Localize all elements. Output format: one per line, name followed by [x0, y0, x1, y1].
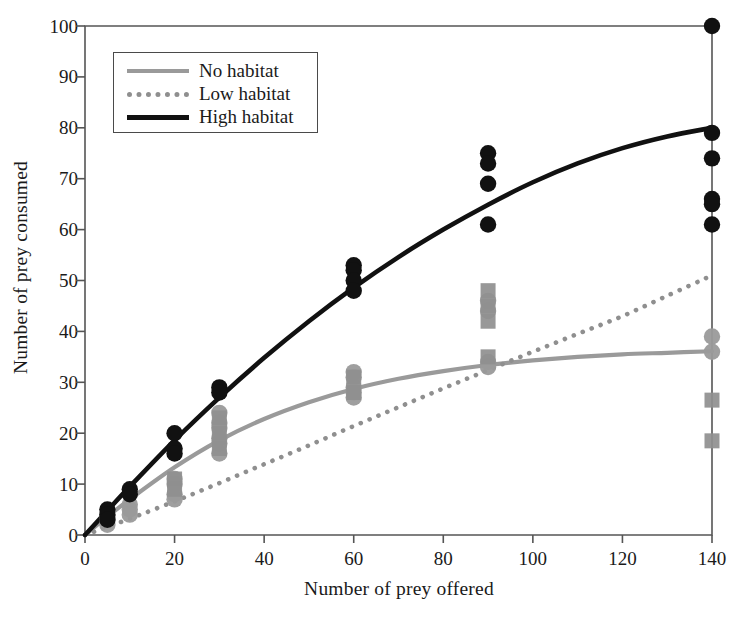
data-point-marker-circle [704, 344, 720, 360]
legend-swatch-solid-black-line-icon [127, 111, 189, 123]
data-point-marker-square [346, 385, 361, 400]
data-point-marker-circle [704, 216, 720, 232]
data-point-marker-circle [346, 282, 362, 298]
data-point-marker-circle [704, 150, 720, 166]
data-points-no-habitat [99, 293, 720, 533]
data-points-low-habitat [167, 283, 719, 497]
data-point-marker-square [481, 298, 496, 313]
legend: No habitat Low habitat High habitat [113, 52, 318, 133]
data-point-marker-circle [211, 384, 227, 400]
legend-item-no-habitat: No habitat [114, 60, 317, 82]
data-point-marker-square [346, 370, 361, 385]
data-point-marker-circle [704, 328, 720, 344]
legend-label: Low habitat [199, 84, 290, 104]
figure-root: Number of prey consumed 0102030405060708… [0, 0, 739, 622]
data-point-marker-circle [480, 155, 496, 171]
data-point-marker-square [167, 482, 182, 497]
data-point-marker-circle [99, 512, 115, 528]
data-point-marker-circle [122, 486, 138, 502]
legend-swatch-solid-gray-line-icon [127, 65, 189, 77]
legend-label: No habitat [199, 61, 279, 81]
data-point-marker-circle [122, 506, 138, 522]
legend-swatch-dotted-gray-line-icon [127, 88, 189, 100]
data-point-marker-square [481, 314, 496, 329]
data-point-marker-square [212, 426, 227, 441]
legend-item-high-habitat: High habitat [114, 106, 317, 128]
data-point-marker-circle [704, 125, 720, 141]
plot-area [0, 0, 739, 622]
data-point-marker-square [481, 349, 496, 364]
x-axis-title: Number of prey offered [85, 578, 713, 600]
data-point-marker-square [481, 283, 496, 298]
data-point-marker-circle [480, 176, 496, 192]
legend-item-low-habitat: Low habitat [114, 83, 317, 105]
legend-label: High habitat [199, 107, 293, 127]
data-point-marker-square [705, 433, 720, 448]
data-point-marker-circle [166, 445, 182, 461]
data-point-marker-circle [704, 196, 720, 212]
data-point-marker-circle [480, 216, 496, 232]
data-point-marker-square [705, 393, 720, 408]
data-point-marker-circle [704, 18, 720, 34]
data-point-marker-square [212, 441, 227, 456]
data-point-marker-circle [166, 425, 182, 441]
data-point-marker-square [212, 410, 227, 425]
